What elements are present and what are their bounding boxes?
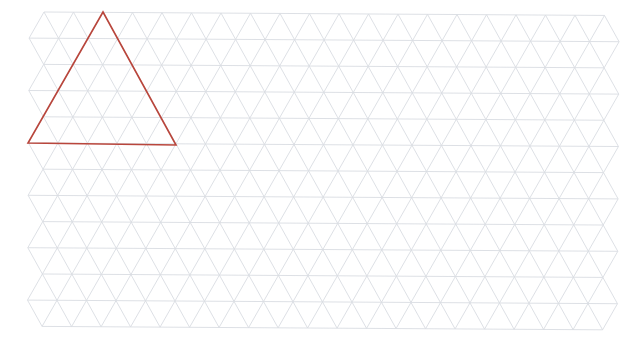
triangle-grid-canvas <box>0 0 630 356</box>
grid-lines <box>27 12 619 330</box>
triangle-grid <box>27 12 619 330</box>
